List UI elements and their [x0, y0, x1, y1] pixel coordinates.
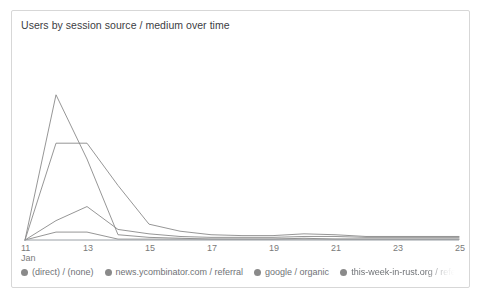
x-tick-label: 21: [331, 243, 341, 254]
legend-item[interactable]: news.ycombinator.com / referral: [105, 266, 244, 278]
legend-dot-icon: [254, 269, 261, 276]
legend-item-label: this-week-in-rust.org / referral: [351, 266, 455, 278]
series-line: [25, 143, 459, 240]
legend-dot-icon: [105, 269, 112, 276]
legend-item[interactable]: google / organic: [254, 266, 329, 278]
series-line: [25, 207, 459, 240]
x-tick-label: 23: [393, 243, 403, 254]
series-line: [25, 95, 459, 240]
chart-card: Users by session source / medium over ti…: [11, 10, 470, 288]
legend-item-label: news.ycombinator.com / referral: [116, 266, 244, 278]
x-tick-label: 15: [145, 243, 155, 254]
x-tick-label: 19: [269, 243, 279, 254]
plot-area: 11Jan13151719212325: [12, 11, 470, 288]
screenshot-root: Users by session source / medium over ti…: [0, 0, 481, 302]
legend-item-label: (direct) / (none): [32, 266, 94, 278]
legend-dot-icon: [340, 269, 347, 276]
legend-item[interactable]: this-week-in-rust.org / referral: [340, 266, 455, 278]
x-tick-label: 13: [83, 243, 93, 254]
legend-dot-icon: [21, 269, 28, 276]
chart-legend: (direct) / (none)news.ycombinator.com / …: [21, 263, 470, 281]
x-tick-label: 17: [207, 243, 217, 254]
legend-item[interactable]: (direct) / (none): [21, 266, 94, 278]
series-layer: [25, 95, 459, 240]
legend-item-label: google / organic: [265, 266, 329, 278]
x-tick-label: 25: [455, 243, 465, 254]
